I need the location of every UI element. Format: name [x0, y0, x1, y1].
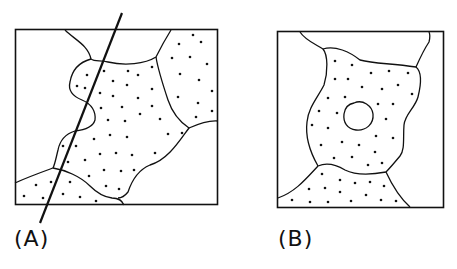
panel-b-frame	[278, 32, 444, 208]
grain-boundary	[318, 164, 386, 174]
grain-boundary	[386, 172, 410, 207]
grain-boundary	[300, 32, 430, 67]
grain-boundary	[53, 59, 95, 168]
grain-boundary	[278, 166, 318, 198]
section-line	[40, 13, 122, 223]
panel-a-frame	[16, 30, 218, 205]
inclusion-boundary	[344, 102, 373, 130]
panel-b-label: (B)	[278, 226, 313, 251]
panel-b-dots	[291, 60, 414, 204]
panel-a-label: (A)	[14, 226, 49, 251]
grain-boundary	[307, 49, 327, 166]
grain-boundary	[15, 168, 124, 205]
panel-b	[278, 32, 444, 208]
panel-a-dots	[23, 34, 214, 203]
grain-boundary	[65, 30, 171, 64]
diagram-canvas	[0, 0, 457, 269]
panel-a	[15, 13, 218, 223]
grain-boundary	[386, 67, 420, 172]
grain-boundary	[118, 57, 189, 198]
grain-boundary	[189, 121, 218, 128]
